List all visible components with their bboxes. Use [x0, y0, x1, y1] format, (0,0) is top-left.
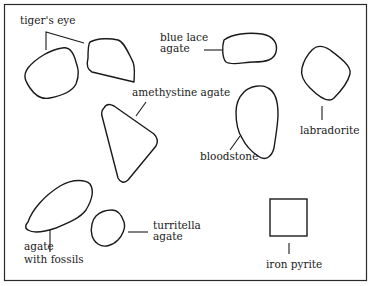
stone-turritella-agate: turritella agate	[91, 210, 201, 246]
label-bloodstone: bloodstone	[200, 150, 258, 162]
label-blue-lace-agate-line2: agate	[160, 42, 190, 54]
label-agate-with-fossils-line1: agate	[24, 240, 54, 252]
stone-tigers-eye: tiger's eye	[20, 14, 135, 98]
label-turritella-agate-line2: agate	[153, 230, 183, 242]
stone-amethystine-agate: amethystine agate	[102, 86, 231, 182]
label-labradorite: labradorite	[300, 124, 359, 136]
label-agate-with-fossils-line2: with fossils	[24, 253, 84, 265]
stone-blue-lace-agate: blue lace agate	[160, 31, 276, 64]
stone-diagram: tiger's eye blue lace agate labradorite …	[0, 0, 371, 286]
stone-iron-pyrite: iron pyrite	[266, 199, 322, 270]
stone-agate-with-fossils: agate with fossils	[24, 181, 92, 266]
stone-labradorite: labradorite	[300, 46, 359, 136]
label-tigers-eye: tiger's eye	[20, 14, 76, 26]
label-iron-pyrite: iron pyrite	[266, 258, 322, 270]
label-amethystine-agate: amethystine agate	[132, 86, 230, 98]
